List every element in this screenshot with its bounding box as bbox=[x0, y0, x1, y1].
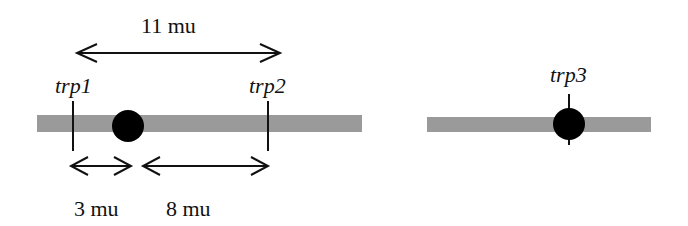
distance-arrow-11mu bbox=[77, 44, 280, 62]
distance-label-8mu: 8 mu bbox=[166, 196, 211, 221]
centromere-2 bbox=[553, 108, 585, 140]
distance-arrow-8mu bbox=[143, 157, 268, 175]
centromere-1 bbox=[112, 110, 144, 142]
distance-arrow-3mu bbox=[71, 157, 131, 175]
chromosome-2-bar bbox=[427, 117, 651, 132]
distance-label-3mu: 3 mu bbox=[74, 196, 119, 221]
linkage-diagram: trp1 trp2 11 mu 3 mu 8 mu trp3 bbox=[0, 0, 688, 226]
trp3-label: trp3 bbox=[550, 62, 587, 87]
distance-label-11mu: 11 mu bbox=[141, 13, 196, 38]
trp2-label: trp2 bbox=[249, 73, 286, 98]
chromosome-1-bar bbox=[37, 115, 362, 132]
chromosome-1: trp1 trp2 11 mu 3 mu 8 mu bbox=[37, 13, 362, 221]
trp1-label: trp1 bbox=[55, 73, 92, 98]
chromosome-2: trp3 bbox=[427, 62, 651, 145]
